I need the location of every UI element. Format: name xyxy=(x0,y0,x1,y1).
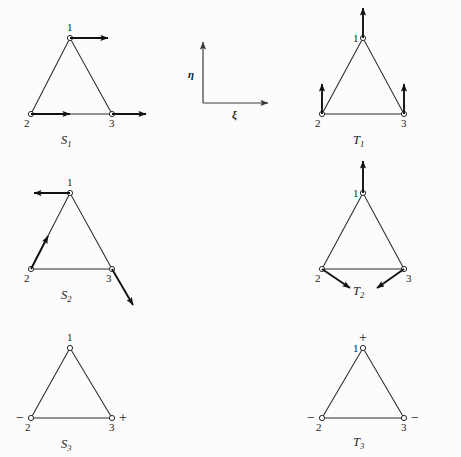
arrows-s1 xyxy=(31,38,146,114)
node-label-3: 3 xyxy=(406,272,412,284)
panel-caption-t3: T3 xyxy=(353,435,364,451)
node-label-2: 2 xyxy=(24,272,30,284)
triangle-s3 xyxy=(28,345,114,420)
panel-caption-s1: S1 xyxy=(61,133,72,149)
triangle-t1 xyxy=(319,35,406,116)
node-label-3: 3 xyxy=(109,421,115,433)
node-label-1: 1 xyxy=(353,342,359,354)
node-1-marker xyxy=(67,345,72,350)
node-label-1: 1 xyxy=(353,187,359,199)
triangle-edges xyxy=(322,193,404,269)
sign-node-2-minus: − xyxy=(16,410,24,425)
triangle-edges xyxy=(322,348,404,418)
panel-t2: 1 2 3 T2 xyxy=(291,155,461,315)
eta-axis-label: η xyxy=(188,68,194,80)
panel-s3: 1 2 3 − + S3 xyxy=(0,310,175,457)
node-label-1: 1 xyxy=(67,176,73,188)
node-label-2: 2 xyxy=(25,421,31,433)
node-label-2: 2 xyxy=(24,117,30,129)
node-3-marker xyxy=(401,415,406,420)
arrow-node-3-down-left xyxy=(377,269,404,288)
triangle-edges xyxy=(31,193,112,269)
node-2-marker xyxy=(28,415,33,420)
node-label-2: 2 xyxy=(315,117,321,129)
sign-node-3-plus: + xyxy=(119,410,127,425)
triangle-s2 xyxy=(28,190,114,271)
sign-node-1-plus: + xyxy=(359,330,367,345)
arrow-node-2-down-right xyxy=(322,269,350,288)
node-label-2: 2 xyxy=(316,421,322,433)
triangle-edges xyxy=(322,38,404,114)
node-label-3: 3 xyxy=(109,117,115,129)
panel-t1: 1 2 3 T1 xyxy=(291,0,461,160)
figure-canvas: 1 2 3 S1 η ξ xyxy=(0,0,461,457)
node-label-3: 3 xyxy=(401,421,407,433)
panel-s1: 1 2 3 S1 xyxy=(0,0,175,160)
panel-caption-t2: T2 xyxy=(353,284,365,300)
node-label-1: 1 xyxy=(67,331,73,343)
xi-axis-label: ξ xyxy=(232,108,237,121)
sign-node-3-minus: − xyxy=(411,410,419,425)
arrow-node-2-up-right xyxy=(31,236,48,269)
panel-caption-t1: T1 xyxy=(353,133,364,149)
node-1-marker xyxy=(360,345,365,350)
panel-t3: 1 2 3 + − − T3 xyxy=(291,310,461,457)
panel-caption-s3: S3 xyxy=(61,437,72,453)
arrow-node-3-down-right xyxy=(112,269,133,305)
node-label-1: 1 xyxy=(353,32,359,44)
node-3-marker xyxy=(109,415,114,420)
panel-s2: 1 2 3 S2 xyxy=(0,155,175,315)
arrows-t1 xyxy=(322,8,404,114)
node-2-marker xyxy=(319,415,324,420)
triangle-t3 xyxy=(319,345,406,420)
coordinate-axes: η ξ xyxy=(180,30,290,139)
node-label-1: 1 xyxy=(67,21,73,33)
sign-node-2-minus: − xyxy=(307,410,315,425)
triangle-edges xyxy=(31,348,112,418)
triangle-t2 xyxy=(319,190,406,271)
panel-caption-s2: S2 xyxy=(61,288,72,304)
node-label-3: 3 xyxy=(401,117,407,129)
arrows-s2 xyxy=(31,193,133,305)
node-label-3: 3 xyxy=(106,272,112,284)
triangle-edges xyxy=(31,38,112,114)
node-label-2: 2 xyxy=(315,272,321,284)
triangle-s1 xyxy=(28,35,114,116)
